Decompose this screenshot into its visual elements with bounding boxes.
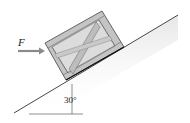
incline-crate-diagram: F 30°	[0, 0, 190, 123]
force-label: F	[17, 36, 25, 48]
angle-label: 30°	[64, 95, 77, 105]
force-arrow	[18, 48, 45, 55]
